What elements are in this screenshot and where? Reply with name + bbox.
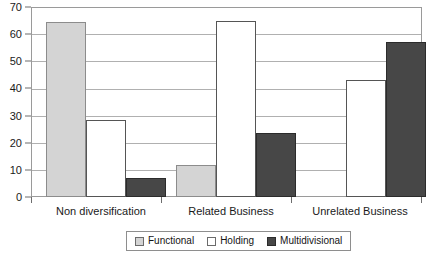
legend-swatch-holding-icon — [207, 237, 216, 246]
bar-related-business-functional — [176, 165, 216, 197]
x-axis: Non diversification Related Business Unr… — [31, 197, 422, 223]
bar-non-diversification-multidivisional — [126, 178, 166, 197]
legend-entry-multidivisional: Multidivisional — [267, 236, 342, 246]
x-tick-mark — [31, 197, 32, 203]
bar-related-business-holding — [216, 21, 256, 197]
bar-chart: 70 60 50 40 30 20 10 0 — [0, 0, 429, 257]
legend-label-multidivisional: Multidivisional — [280, 236, 342, 246]
bar-unrelated-business-multidivisional — [386, 42, 426, 197]
x-tick-mark — [291, 197, 292, 203]
bar-non-diversification-functional — [46, 22, 86, 197]
y-tick-label: 50 — [10, 56, 22, 67]
chart-legend: Functional Holding Multidivisional — [126, 231, 351, 251]
bar-related-business-multidivisional — [256, 133, 296, 197]
bar-non-diversification-holding — [86, 120, 126, 197]
x-category-label-related-business: Related Business — [188, 205, 274, 217]
x-tick-mark — [421, 197, 422, 203]
y-tick-label: 60 — [10, 29, 22, 40]
x-category-label-unrelated-business: Unrelated Business — [312, 205, 407, 217]
y-tick-label: 10 — [10, 165, 22, 176]
y-tick-label: 40 — [10, 83, 22, 94]
legend-entry-functional: Functional — [135, 236, 194, 246]
y-tick-label: 0 — [16, 192, 22, 203]
y-tick-label: 30 — [10, 111, 22, 122]
y-axis: 70 60 50 40 30 20 10 0 — [0, 0, 31, 204]
x-tick-mark — [161, 197, 162, 203]
legend-swatch-multidivisional-icon — [267, 237, 276, 246]
legend-entry-holding: Holding — [207, 236, 254, 246]
y-tick-label: 70 — [10, 2, 22, 13]
legend-label-holding: Holding — [220, 236, 254, 246]
legend-label-functional: Functional — [148, 236, 194, 246]
x-category-label-non-diversification: Non diversification — [56, 205, 146, 217]
bar-unrelated-business-holding — [346, 80, 386, 197]
bars-layer — [31, 7, 422, 197]
legend-swatch-functional-icon — [135, 237, 144, 246]
y-tick-label: 20 — [10, 138, 22, 149]
